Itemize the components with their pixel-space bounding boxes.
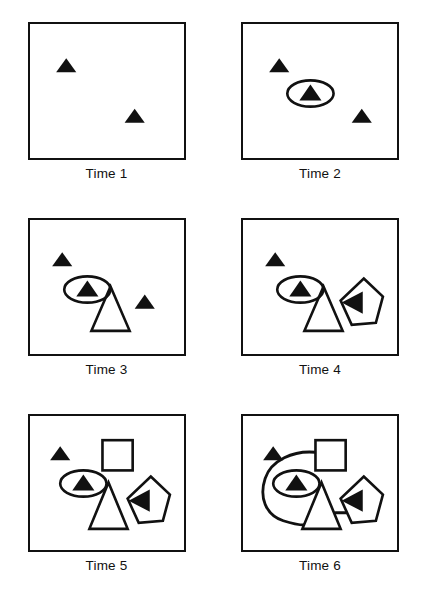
panel-frame-5 [28, 414, 186, 552]
outlined-square-icon [315, 440, 345, 470]
filled-triangle-center-icon [299, 84, 321, 100]
panel-frame-6 [241, 414, 399, 552]
filled-triangle-left-icon [265, 252, 285, 266]
time-sequence-figure: Time 1 Time 2 [0, 0, 427, 589]
panel-grid: Time 1 Time 2 [0, 0, 427, 589]
filled-triangle-right-icon [134, 295, 154, 309]
panel-time-6: Time 6 [213, 392, 427, 589]
panel-label-2: Time 2 [299, 167, 341, 181]
filled-triangle-left-icon [52, 252, 72, 266]
panel-label-5: Time 5 [86, 559, 128, 573]
panel-time-2: Time 2 [213, 0, 427, 196]
filled-triangle-right-icon [124, 109, 144, 123]
panel-time-1: Time 1 [0, 0, 213, 196]
panel-frame-2 [241, 22, 399, 160]
panel-frame-3 [28, 218, 186, 356]
outlined-triangle-icon [89, 482, 127, 528]
panel-label-4: Time 4 [299, 363, 341, 377]
filled-triangle-right-icon [352, 109, 372, 123]
panel-label-3: Time 3 [86, 363, 128, 377]
filled-triangle-center-icon [289, 280, 311, 296]
panel-frame-1 [28, 22, 186, 160]
filled-triangle-center-icon [76, 280, 98, 296]
panel-frame-4 [241, 218, 399, 356]
outlined-square-icon [102, 440, 132, 470]
filled-triangle-left-icon [269, 58, 289, 72]
panel-label-1: Time 1 [86, 167, 128, 181]
panel-time-4: Time 4 [213, 196, 427, 392]
panel-time-5: Time 5 [0, 392, 213, 589]
filled-triangle-left-icon [56, 58, 76, 72]
panel-time-3: Time 3 [0, 196, 213, 392]
filled-triangle-center-icon [72, 474, 94, 490]
filled-triangle-left-icon [263, 446, 283, 460]
filled-triangle-left-icon [50, 446, 70, 460]
panel-label-6: Time 6 [299, 559, 341, 573]
